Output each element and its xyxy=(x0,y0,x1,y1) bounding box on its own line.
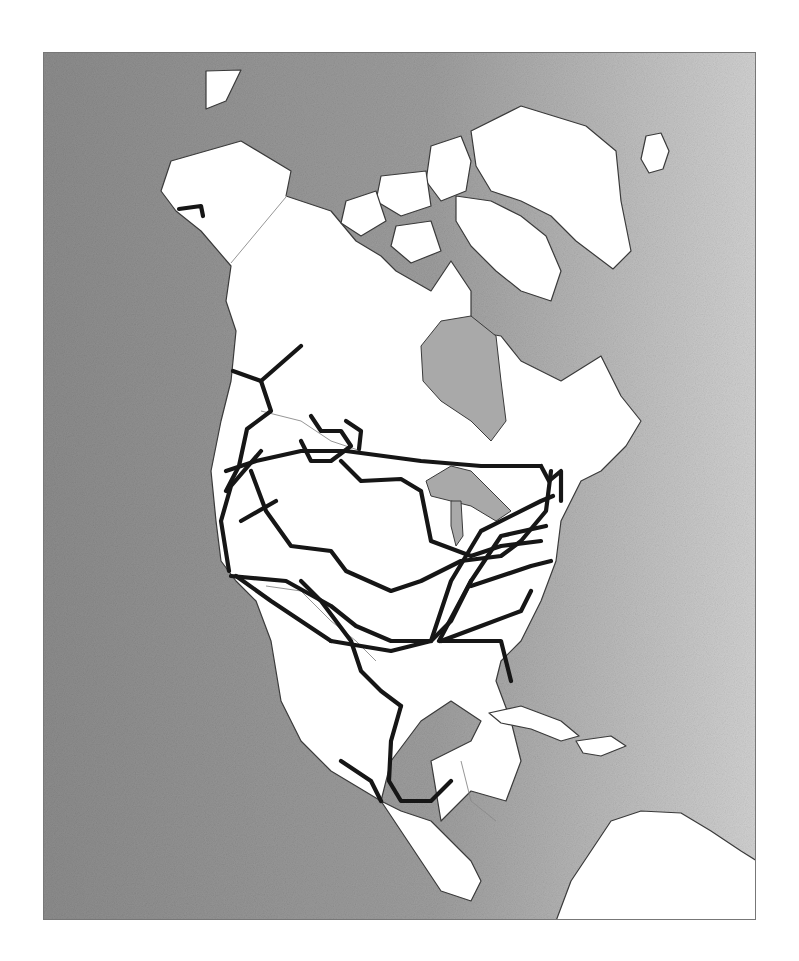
map-frame xyxy=(43,52,756,920)
north-america-map xyxy=(44,53,756,920)
